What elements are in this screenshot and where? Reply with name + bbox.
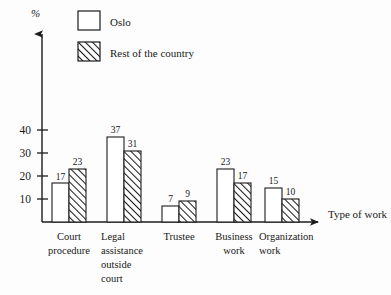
category-labels: Court procedure Legal assistance outside…	[48, 231, 314, 284]
tick-label-10: 10	[20, 193, 32, 205]
legend: Oslo Rest of the country	[78, 11, 195, 61]
category-label-legal-assistance-line-0: Legal	[101, 231, 125, 242]
legend-swatch-rest-of-country	[78, 42, 100, 61]
value-label-oslo-court-procedure: 17	[56, 172, 66, 182]
category-label-organization-work-line-0: Organization	[259, 231, 314, 242]
category-label-business-work-line-1: work	[223, 245, 245, 256]
legend-label-rest-of-country: Rest of the country	[110, 47, 195, 59]
bar-rest-legal-assistance	[124, 151, 141, 222]
value-label-oslo-trustee: 7	[168, 194, 173, 204]
category-label-business-work-line-0: Business	[215, 231, 252, 242]
chart-canvas: Oslo Rest of the country % Type of work …	[0, 0, 391, 295]
y-axis-unit-label: %	[31, 7, 40, 19]
bar-group-legal-assistance: 37 31	[107, 125, 141, 222]
bar-rest-court-procedure	[69, 169, 86, 222]
bar-rest-trustee	[179, 201, 196, 222]
category-label-trustee-line-0: Trustee	[163, 231, 194, 242]
value-label-rest-organization-work: 10	[286, 187, 296, 197]
bar-oslo-trustee	[162, 206, 179, 222]
category-label-legal-assistance-line-1: assistance	[101, 245, 143, 256]
x-axis-title: Type of work	[328, 208, 388, 220]
bar-group-organization-work: 15 10	[265, 176, 299, 222]
legend-swatch-oslo	[78, 11, 100, 30]
value-label-rest-court-procedure: 23	[73, 157, 83, 167]
bar-group-trustee: 7 9	[162, 189, 196, 222]
bar-group-court-procedure: 17 23	[52, 157, 86, 222]
value-label-oslo-business-work: 23	[221, 157, 231, 167]
category-label-legal-assistance-line-3: court	[101, 273, 123, 284]
bar-group-business-work: 23 17	[217, 157, 251, 222]
tick-label-30: 30	[20, 147, 32, 159]
y-axis-ticks: 10 20 30 40	[20, 124, 49, 205]
legend-label-oslo: Oslo	[110, 16, 131, 28]
bar-rest-business-work	[234, 183, 251, 222]
value-label-rest-legal-assistance: 31	[128, 139, 138, 149]
tick-label-40: 40	[20, 124, 32, 136]
category-label-court-procedure-line-1: procedure	[48, 245, 90, 256]
tick-label-20: 20	[20, 170, 32, 182]
bar-chart-figure: Oslo Rest of the country % Type of work …	[0, 0, 391, 295]
bar-oslo-court-procedure	[52, 183, 69, 222]
category-label-court-procedure-line-0: Court	[57, 231, 81, 242]
value-label-rest-trustee: 9	[185, 189, 190, 199]
bar-rest-organization-work	[282, 199, 299, 222]
value-label-oslo-legal-assistance: 37	[111, 125, 121, 135]
category-label-legal-assistance-line-2: outside	[101, 259, 132, 270]
value-label-rest-business-work: 17	[238, 171, 248, 181]
value-label-oslo-organization-work: 15	[269, 176, 279, 186]
bar-oslo-legal-assistance	[107, 137, 124, 222]
bar-oslo-organization-work	[265, 188, 282, 222]
bar-oslo-business-work	[217, 169, 234, 222]
category-label-organization-work-line-1: work	[259, 245, 281, 256]
